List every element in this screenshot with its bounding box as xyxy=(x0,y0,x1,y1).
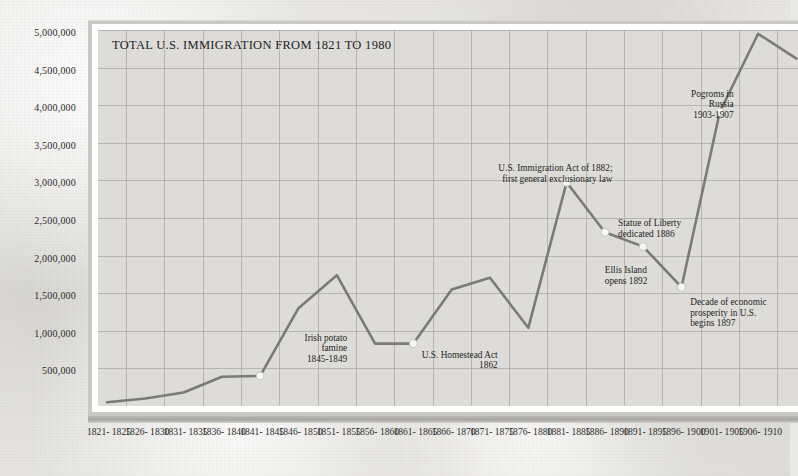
annotation-immigration-act: U.S. Immigration Act of 1882; first gene… xyxy=(498,163,612,184)
annotation-homestead-act: U.S. Homestead Act 1862 xyxy=(422,350,498,371)
y-axis-tick-label: 2,500,000 xyxy=(34,215,76,226)
annotation-irish-famine: Irish potato famine 1845-1849 xyxy=(305,333,348,365)
annotation-pogroms-russia: Pogroms in Russia 1903-1907 xyxy=(691,89,734,121)
y-axis-tick-label: 1,500,000 xyxy=(34,290,76,301)
y-axis-tick-label: 3,500,000 xyxy=(34,139,76,150)
x-axis-tick-label: 1906- 1910 xyxy=(738,426,782,438)
chart-frame-inner: TOTAL U.S. IMMIGRATION FROM 1821 TO 1980… xyxy=(92,24,798,412)
annotation-economic-prosperity: Decade of economic prosperity in U.S. be… xyxy=(690,297,766,329)
y-axis-tick-label: 500,000 xyxy=(42,365,76,376)
y-axis-tick-label: 4,000,000 xyxy=(34,102,76,113)
data-point-marker[interactable] xyxy=(256,372,264,380)
x-axis: 1821- 18251826- 18301831- 18351836- 1840… xyxy=(88,426,798,460)
data-point-marker[interactable] xyxy=(601,228,609,236)
plot-area: TOTAL U.S. IMMIGRATION FROM 1821 TO 1980… xyxy=(98,30,798,406)
y-axis-tick-label: 1,000,000 xyxy=(34,327,76,338)
y-axis-tick-label: 2,000,000 xyxy=(34,252,76,263)
x-axis-rule xyxy=(88,416,798,423)
annotation-statue-of-liberty: Statue of Liberty dedicated 1886 xyxy=(618,218,681,239)
y-axis-tick-label: 5,000,000 xyxy=(34,27,76,38)
data-point-marker[interactable] xyxy=(678,283,686,291)
annotation-ellis-island: Ellis Island opens 1892 xyxy=(605,265,648,286)
data-point-marker[interactable] xyxy=(639,243,647,251)
y-axis-tick-label: 4,500,000 xyxy=(34,64,76,75)
y-axis-tick-label: 3,000,000 xyxy=(34,177,76,188)
y-axis: 500,0001,000,0001,500,0002,000,0002,500,… xyxy=(0,0,82,476)
data-point-marker[interactable] xyxy=(409,340,417,348)
chart-frame: TOTAL U.S. IMMIGRATION FROM 1821 TO 1980… xyxy=(88,20,798,416)
